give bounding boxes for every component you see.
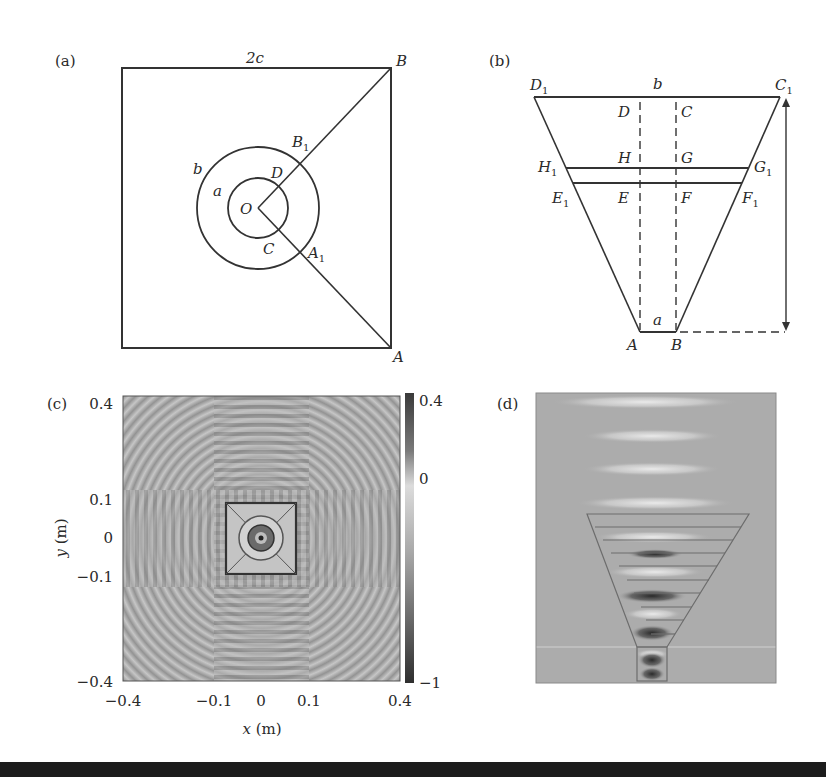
colorbar-tick-min: −1 bbox=[419, 674, 441, 692]
x-tick-0.1: 0.1 bbox=[297, 692, 321, 710]
x-tick-0.4: 0.4 bbox=[388, 692, 412, 710]
point-label-A: A bbox=[625, 336, 638, 354]
point-label-C1: C1 bbox=[775, 76, 793, 96]
point-label-F1: F1 bbox=[741, 189, 759, 209]
edge-label-b: b bbox=[653, 75, 663, 93]
point-label-D: D bbox=[617, 103, 630, 121]
circle-label-b: b bbox=[193, 160, 203, 178]
x-tick-neg0.4: −0.4 bbox=[105, 692, 141, 710]
panel-d-field-plot: (d) bbox=[470, 370, 826, 762]
point-label-B: B bbox=[395, 52, 407, 70]
x-axis-label: x (m) bbox=[242, 720, 281, 738]
colorbar-tick-max: 0.4 bbox=[419, 392, 443, 410]
point-label-D1: D1 bbox=[529, 76, 548, 96]
colorbar bbox=[405, 393, 414, 683]
point-label-C: C bbox=[681, 103, 693, 121]
left-slant-D1A bbox=[534, 97, 640, 332]
point-label-D: D bbox=[270, 164, 283, 182]
point-label-H1: H1 bbox=[537, 158, 557, 178]
panel-a-label: (a) bbox=[55, 52, 76, 70]
point-label-E1: E1 bbox=[551, 189, 569, 209]
line-OB bbox=[258, 68, 391, 208]
line-OA bbox=[258, 208, 391, 348]
point-label-H: H bbox=[617, 149, 632, 167]
point-label-G: G bbox=[681, 149, 693, 167]
panel-c-label: (c) bbox=[47, 395, 67, 413]
page-bottom-bar bbox=[0, 762, 826, 777]
panel-c-field-plot: (c) 0.4 0 −1 0.4 0.1 0 −0.1 −0.4 −0.4 −0… bbox=[0, 370, 470, 762]
right-slant-C1B bbox=[676, 97, 780, 332]
point-label-E: E bbox=[617, 189, 629, 207]
y-axis-label: y (m) bbox=[52, 518, 70, 558]
panel-d-label: (d) bbox=[497, 395, 518, 413]
arrow-head-up-icon bbox=[782, 98, 790, 107]
panel-a-diagram: (a) 2c B A B1 A1 D C O a b bbox=[0, 0, 420, 370]
point-label-A: A bbox=[391, 348, 404, 366]
panel-b-label: (b) bbox=[489, 52, 510, 70]
point-label-G1: G1 bbox=[754, 158, 772, 178]
point-label-O: O bbox=[240, 200, 252, 218]
concentrator-cell bbox=[226, 503, 296, 574]
y-tick-0.4: 0.4 bbox=[89, 395, 113, 413]
colorbar-tick-zero: 0 bbox=[419, 470, 429, 488]
y-tick-neg0.1: −0.1 bbox=[77, 568, 113, 586]
y-tick-0: 0 bbox=[103, 529, 113, 547]
point-label-B1: B1 bbox=[291, 133, 309, 153]
edge-label-2c: 2c bbox=[245, 49, 265, 67]
arrow-head-down-icon bbox=[782, 322, 790, 331]
point-label-A1: A1 bbox=[306, 244, 325, 264]
x-tick-neg0.1: −0.1 bbox=[196, 692, 232, 710]
point-label-B: B bbox=[670, 336, 682, 354]
y-tick-0.1: 0.1 bbox=[89, 491, 113, 509]
circle-label-a: a bbox=[213, 182, 222, 200]
x-tick-0: 0 bbox=[256, 692, 266, 710]
y-tick-neg0.4: −0.4 bbox=[77, 673, 113, 691]
panel-b-diagram: (b) D1 C1 b D C H G H1 G1 E1 F1 E F a A … bbox=[420, 0, 826, 370]
point-label-F: F bbox=[680, 189, 692, 207]
point-label-C: C bbox=[263, 240, 275, 258]
edge-label-a: a bbox=[653, 311, 662, 329]
